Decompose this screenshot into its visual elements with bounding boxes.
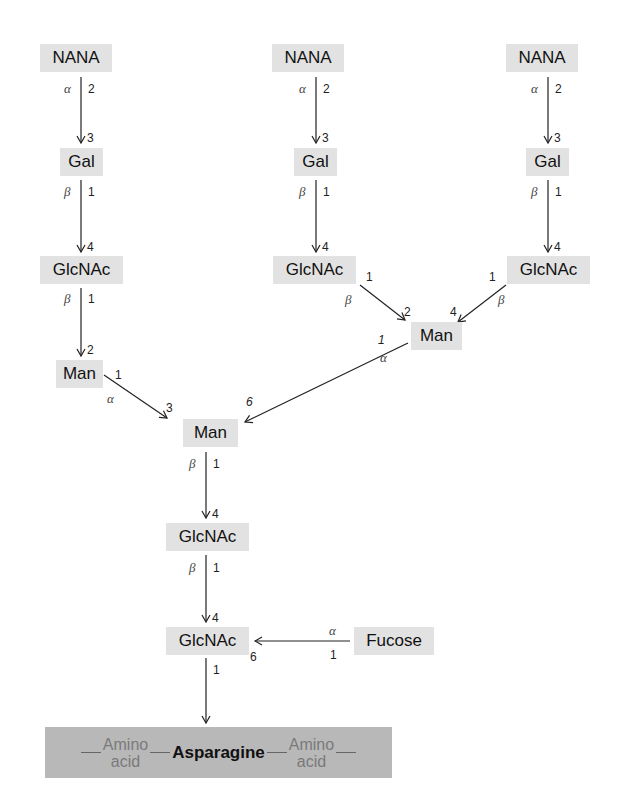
peptide-backbone: Amino acid Asparagine Amino acid — [45, 727, 392, 778]
linkage-position: 4 — [554, 240, 561, 254]
asparagine-label: Asparagine — [172, 743, 265, 763]
amino-acid-right: Amino acid — [289, 736, 334, 770]
linkage-position: 2 — [87, 343, 94, 357]
linkage-position: 1 — [213, 457, 220, 471]
linkage-alpha: α — [531, 82, 538, 96]
linkage-alpha: α — [299, 82, 306, 96]
linkage-position: 2 — [323, 82, 330, 96]
linkage-position: 6 — [246, 395, 253, 409]
linkage-position: 3 — [554, 131, 561, 145]
linkage-position: 1 — [366, 270, 373, 284]
linkage-position: 4 — [322, 240, 329, 254]
glcnac-left-node: GlcNAc — [40, 256, 123, 284]
man-right-node: Man — [411, 322, 462, 350]
linkage-beta: β — [299, 185, 305, 199]
linkage-position: 3 — [166, 401, 173, 415]
linkage-position: 1 — [88, 185, 95, 199]
linkage-alpha: α — [329, 624, 336, 638]
linkage-alpha: α — [380, 351, 387, 365]
linkage-position: 1 — [323, 185, 330, 199]
amino-acid-left-line2: acid — [111, 753, 140, 770]
gal-right-node: Gal — [526, 148, 569, 176]
linkage-position: 4 — [450, 305, 457, 319]
glcnac-middle-node: GlcNAc — [273, 256, 356, 284]
linkage-position: 2 — [555, 82, 562, 96]
linkage-beta: β — [345, 293, 351, 307]
linkage-position: 1 — [330, 648, 337, 662]
glcnac-core1-node: GlcNAc — [166, 523, 249, 551]
linkage-position: 4 — [212, 507, 219, 521]
linkage-beta: β — [189, 457, 195, 471]
peptide-bond — [336, 752, 356, 754]
linkage-alpha: α — [107, 392, 114, 406]
amino-acid-left: Amino acid — [103, 736, 148, 770]
linkage-beta: β — [531, 185, 537, 199]
linkage-position: 3 — [87, 131, 94, 145]
nana-middle-node: NANA — [272, 44, 344, 72]
man-left-node: Man — [56, 360, 103, 388]
nana-left-node: NANA — [40, 44, 112, 72]
linkage-position: 4 — [87, 240, 94, 254]
linkage-alpha: α — [64, 82, 71, 96]
linkage-position: 1 — [213, 663, 220, 677]
linkage-arrows — [0, 0, 624, 805]
linkage-position: 3 — [322, 131, 329, 145]
linkage-position: 1 — [88, 292, 95, 306]
linkage-beta: β — [64, 185, 70, 199]
man-core-node: Man — [183, 419, 238, 447]
gal-middle-node: Gal — [294, 148, 337, 176]
linkage-beta: β — [189, 561, 195, 575]
linkage-beta: β — [64, 292, 70, 306]
linkage-position: 1 — [489, 270, 496, 284]
linkage-position: 6 — [250, 650, 257, 664]
linkage-position: 1 — [555, 185, 562, 199]
glcnac-right-node: GlcNAc — [507, 256, 590, 284]
linkage-position: 1 — [378, 333, 385, 347]
linkage-position: 2 — [88, 82, 95, 96]
linkage-beta: β — [498, 293, 504, 307]
gal-left-node: Gal — [60, 148, 103, 176]
linkage-position: 4 — [212, 611, 219, 625]
amino-acid-right-line2: acid — [297, 753, 326, 770]
peptide-bond — [150, 752, 170, 754]
amino-acid-right-line1: Amino — [289, 736, 334, 753]
amino-acid-left-line1: Amino — [103, 736, 148, 753]
peptide-bond — [81, 752, 101, 754]
peptide-bond — [267, 752, 287, 754]
linkage-position: 2 — [404, 305, 411, 319]
linkage-position: 1 — [115, 368, 122, 382]
fucose-node: Fucose — [354, 627, 434, 655]
nana-right-node: NANA — [506, 44, 578, 72]
linkage-position: 1 — [213, 561, 220, 575]
glcnac-core2-node: GlcNAc — [166, 627, 249, 655]
